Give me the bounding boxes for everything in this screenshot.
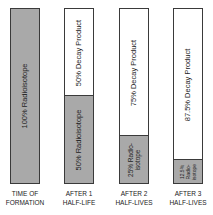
caption-line: AFTER 3 [165, 189, 211, 198]
radioisotope-label: 25% Radio- isotope [127, 143, 141, 177]
decay-product-label: 75% Decay Product [130, 39, 138, 105]
decay-product-label: 50% Decay Product [75, 19, 83, 85]
caption-line: TIME OF [2, 189, 48, 198]
radioisotope-segment: 100% Radioisotope [11, 9, 39, 183]
decay-product-segment: 75% Decay Product [120, 9, 148, 136]
bar-after-1-half-life: 50% Decay Product 50% Radioisotope [64, 8, 94, 184]
caption-after-1-half-life: AFTER 1 HALF-LIFE [56, 189, 102, 207]
radioisotope-segment: 12.5% Radio- isotope [174, 159, 202, 183]
decay-product-segment: 87.5% Decay Product [174, 9, 202, 160]
label-line: isotope [134, 143, 141, 177]
bar-after-3-half-lives: 87.5% Decay Product 12.5% Radio- isotope [173, 8, 203, 184]
label-line: 25% Radio- [127, 143, 134, 177]
radioisotope-label: 100% Radioisotope [21, 63, 29, 128]
decay-product-label: 87.5% Decay Product [184, 48, 192, 121]
caption-line: FORMATION [2, 198, 48, 207]
caption-after-3-half-lives: AFTER 3 HALF-LIVES [165, 189, 211, 207]
bar-after-2-half-lives: 75% Decay Product 25% Radio- isotope [119, 8, 149, 184]
bar-time-of-formation: 100% Radioisotope [10, 8, 40, 184]
caption-after-2-half-lives: AFTER 2 HALF-LIVES [111, 189, 157, 207]
radioisotope-segment: 25% Radio- isotope [120, 135, 148, 183]
radioisotope-label: 50% Radioisotope [75, 109, 83, 170]
caption-line: HALF-LIFE [56, 198, 102, 207]
caption-time-of-formation: TIME OF FORMATION [2, 189, 48, 207]
caption-line: HALF-LIVES [165, 198, 211, 207]
caption-line: AFTER 1 [56, 189, 102, 198]
caption-line: AFTER 2 [111, 189, 157, 198]
radioisotope-segment: 50% Radioisotope [65, 95, 93, 183]
caption-line: HALF-LIVES [111, 198, 157, 207]
radioisotope-label: 12.5% Radio- isotope [179, 163, 197, 179]
label-line: isotope [191, 163, 197, 179]
decay-product-segment: 50% Decay Product [65, 9, 93, 96]
